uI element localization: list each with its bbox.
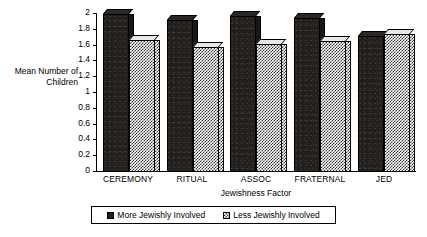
bar xyxy=(256,44,282,172)
bar xyxy=(384,34,410,172)
legend-item-less: Less Jewishly Involved xyxy=(223,210,319,220)
bar-face xyxy=(193,47,219,172)
bar xyxy=(230,16,256,172)
category-label: RITUAL xyxy=(160,174,224,188)
y-tick-label: 1.4 xyxy=(50,54,90,64)
bar-face xyxy=(230,16,256,172)
y-tick-label: 1.2 xyxy=(50,70,90,80)
bar-face xyxy=(320,41,346,172)
y-tick-label: 1.8 xyxy=(50,23,90,33)
y-tick-label: 0.4 xyxy=(50,133,90,143)
bar-face xyxy=(384,34,410,172)
y-tick-label: 0.8 xyxy=(50,102,90,112)
bar-group xyxy=(288,13,352,172)
bar-side xyxy=(219,47,224,172)
bar xyxy=(358,36,384,172)
bar-side xyxy=(346,41,351,172)
bar-group xyxy=(352,13,416,172)
bar xyxy=(129,40,155,172)
bar xyxy=(167,20,193,172)
bar xyxy=(193,47,219,172)
legend-swatch-more-icon xyxy=(107,212,114,219)
category-label: FRATERNAL xyxy=(288,174,352,188)
y-tick-label: 2 xyxy=(50,7,90,17)
y-tick-label: 0.6 xyxy=(50,118,90,128)
legend-swatch-less-icon xyxy=(223,212,230,219)
y-tick-label: 0.2 xyxy=(50,149,90,159)
plot-area: 00.20.40.60.811.21.41.61.82 xyxy=(96,13,416,172)
bar-groups xyxy=(97,13,416,172)
bar-face xyxy=(294,18,320,172)
chart-legend: More Jewishly Involved Less Jewishly Inv… xyxy=(91,206,336,224)
y-tick-label: 1 xyxy=(50,86,90,96)
bar xyxy=(103,14,129,172)
bar-group xyxy=(97,13,161,172)
y-tick-label: 0 xyxy=(50,165,90,175)
bar-side xyxy=(282,44,287,172)
bar-side xyxy=(410,34,415,172)
bar-group xyxy=(161,13,225,172)
bar-chart: Mean Number of Children 00.20.40.60.811.… xyxy=(0,0,427,237)
bar-face xyxy=(256,44,282,172)
bar-pair xyxy=(161,13,225,172)
category-label: CEREMONY xyxy=(96,174,160,188)
category-label: JED xyxy=(352,174,416,188)
bar xyxy=(320,41,346,172)
bar-face xyxy=(129,40,155,172)
x-axis-title: Jewishness Factor xyxy=(96,188,416,198)
bar-pair xyxy=(97,13,161,172)
bar-face xyxy=(167,20,193,172)
bar-pair xyxy=(225,13,289,172)
y-tick-label: 1.6 xyxy=(50,39,90,49)
legend-label-more: More Jewishly Involved xyxy=(117,210,205,220)
legend-item-more: More Jewishly Involved xyxy=(107,210,205,220)
bar xyxy=(294,18,320,172)
legend-label-less: Less Jewishly Involved xyxy=(233,210,319,220)
bar-face xyxy=(358,36,384,172)
bar-face xyxy=(103,14,129,172)
bar-side xyxy=(155,40,160,172)
category-label: ASSOC xyxy=(224,174,288,188)
bar-pair xyxy=(352,13,416,172)
bar-group xyxy=(225,13,289,172)
x-axis-category-labels: CEREMONYRITUALASSOCFRATERNALJED xyxy=(96,174,416,188)
bar-pair xyxy=(288,13,352,172)
